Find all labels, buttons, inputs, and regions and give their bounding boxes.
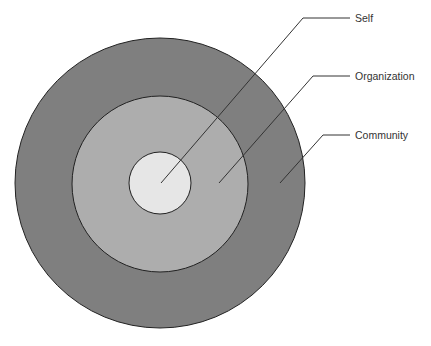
concentric-diagram bbox=[0, 0, 431, 346]
community-label: Community bbox=[355, 129, 408, 141]
self-label: Self bbox=[355, 12, 373, 24]
organization-label: Organization bbox=[355, 70, 415, 82]
self-circle bbox=[129, 152, 191, 214]
